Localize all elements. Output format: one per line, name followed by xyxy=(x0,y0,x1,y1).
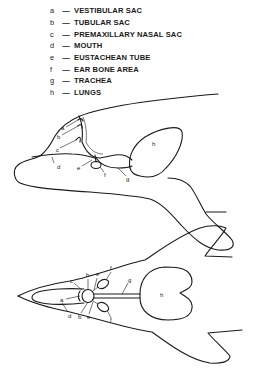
side-airway-inner xyxy=(83,117,103,154)
top-lungs-outline xyxy=(140,267,192,320)
top-leader-f1 xyxy=(106,272,111,280)
side-label-f: f xyxy=(104,172,106,178)
side-ear-bone xyxy=(91,162,101,169)
side-leader-b xyxy=(62,126,78,135)
side-label-b: b xyxy=(57,134,61,140)
side-label-e: e xyxy=(77,165,81,171)
top-body-outline-lower xyxy=(18,296,242,363)
top-label-f1: f xyxy=(110,265,112,271)
side-eustachian-tube xyxy=(95,155,96,162)
side-view: a b c d e f g h xyxy=(14,94,233,250)
side-label-d: d xyxy=(57,164,60,170)
top-view: a c b e f g h d b e f xyxy=(18,226,242,364)
top-label-h: h xyxy=(160,292,163,298)
top-eustachian-lower xyxy=(93,301,98,304)
top-ear-bone-upper xyxy=(96,278,110,291)
side-leader-a xyxy=(66,120,78,127)
top-label-b1: b xyxy=(86,272,90,278)
side-leader-g xyxy=(118,168,126,176)
side-leader-c xyxy=(60,140,76,148)
top-eustachian-upper xyxy=(93,287,98,291)
top-label-g: g xyxy=(128,277,131,283)
side-airway xyxy=(79,116,132,160)
top-label-d: d xyxy=(68,313,71,319)
top-blowhole-complex xyxy=(82,290,94,303)
top-leader-g xyxy=(122,283,128,294)
top-label-a: a xyxy=(60,297,64,303)
side-leader-d xyxy=(52,157,54,163)
side-tubular-sac xyxy=(78,125,82,128)
side-label-h: h xyxy=(152,141,155,147)
top-body-outline-upper xyxy=(18,226,232,296)
top-leader-a xyxy=(66,296,80,299)
top-label-e1: e xyxy=(96,271,100,277)
top-label-f2: f xyxy=(110,317,112,323)
side-trachea xyxy=(96,158,132,168)
top-label-c: c xyxy=(70,278,73,284)
side-lungs-outline xyxy=(130,128,183,177)
dolphin-anatomy-diagram: a b c d e f g h xyxy=(0,0,253,389)
side-premaxillary-sac xyxy=(76,137,80,142)
side-label-c: c xyxy=(56,147,59,153)
side-label-g: g xyxy=(126,176,129,182)
side-body-outline xyxy=(14,94,233,250)
top-leader-e2 xyxy=(89,302,93,314)
